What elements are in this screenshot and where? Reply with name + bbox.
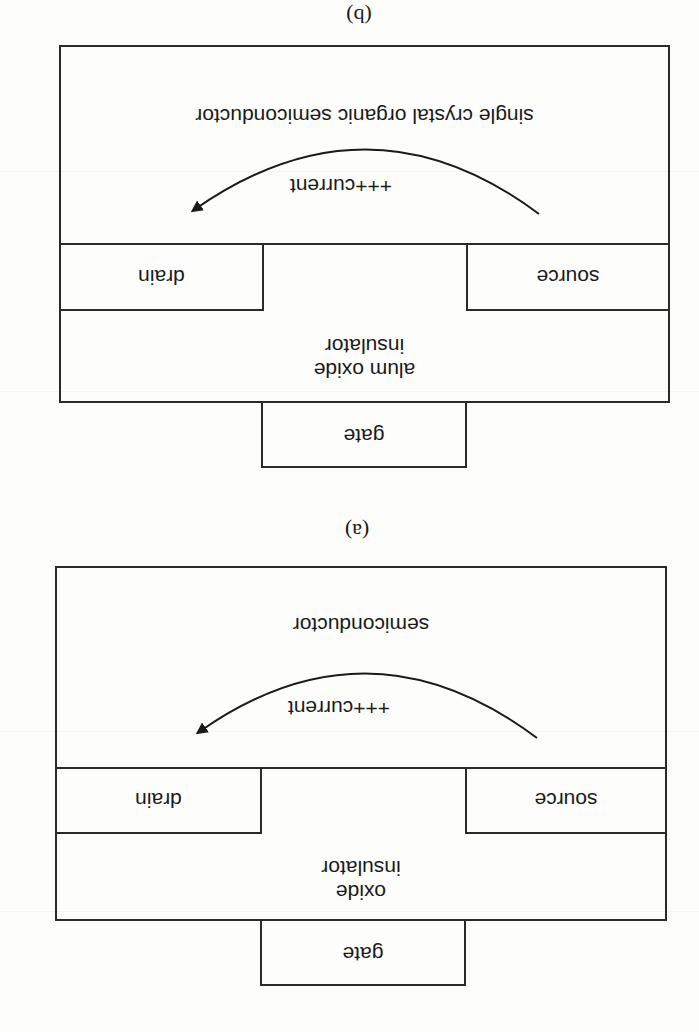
source-a: source [465, 767, 667, 834]
gate-a: gate [260, 919, 466, 986]
drain-a: drain [55, 767, 262, 834]
figure-canvas: gate oxide insulator source drain +++cur… [0, 0, 699, 1032]
source-label-a: source [467, 788, 665, 812]
drain-label-a: drain [57, 788, 260, 812]
semiconductor-boundary-a [55, 767, 667, 769]
current-label-b: +++current [241, 174, 441, 198]
semiconductor-label-a: semiconductor [55, 613, 667, 637]
insulator-label-b: alum oxide insulator [59, 334, 670, 382]
gate-label-b: gate [263, 424, 465, 448]
insulator-label-a: oxide insulator [55, 856, 667, 904]
insulator-line2-a: insulator [55, 856, 667, 880]
insulator-line1-a: oxide [55, 880, 667, 904]
drain-label-b: drain [61, 265, 262, 289]
insulator-line1-b: alum oxide [59, 358, 670, 382]
semiconductor-boundary-b [59, 243, 670, 245]
caption-a: (a) [327, 518, 387, 544]
caption-b: (b) [329, 3, 389, 29]
source-label-b: source [468, 265, 668, 289]
gate-label-a: gate [262, 942, 464, 966]
insulator-line2-b: insulator [59, 334, 670, 358]
current-label-a: +++current [239, 696, 439, 720]
drain-b: drain [59, 243, 264, 311]
semiconductor-label-b: single crystal organic semiconductor [59, 104, 670, 128]
gate-b: gate [261, 401, 467, 468]
source-b: source [466, 243, 670, 311]
